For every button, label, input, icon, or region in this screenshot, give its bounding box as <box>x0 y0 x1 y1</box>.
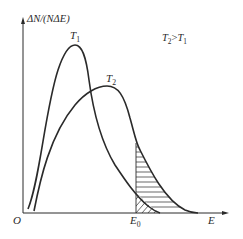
x-axis-label: E <box>208 215 215 226</box>
curve-t1-label: T1 <box>70 30 80 44</box>
curve-t2 <box>34 86 198 213</box>
temperature-condition: T2>T1 <box>162 33 187 45</box>
x-axis-arrow-icon <box>222 211 229 215</box>
y-axis-arrow-icon <box>21 17 25 24</box>
cond-right-sub: 1 <box>183 37 187 46</box>
e0-label: E0 <box>130 215 141 229</box>
axes <box>23 22 224 213</box>
e0-label-sub: 0 <box>137 220 141 229</box>
origin-label: O <box>13 215 21 226</box>
t2-label-sub: 2 <box>112 78 116 87</box>
y-axis-label: ΔN/(NΔE) <box>27 14 70 25</box>
e0-label-main: E <box>130 214 137 226</box>
curve-t2-label: T2 <box>106 73 116 87</box>
energy-distribution-diagram <box>0 0 243 239</box>
curve-t1 <box>28 45 160 213</box>
t1-label-sub: 1 <box>76 35 80 44</box>
